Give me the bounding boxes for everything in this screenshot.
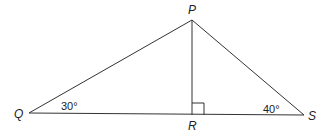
right-angle-marker (192, 103, 204, 115)
angle-label-q: 30° (61, 100, 78, 112)
vertex-label-p: P (188, 3, 196, 17)
vertex-label-q: Q (14, 107, 23, 121)
vertex-label-r: R (188, 119, 197, 133)
angle-label-s: 40° (263, 103, 280, 115)
triangle-diagram: P Q R S 30° 40° (0, 0, 331, 137)
segment-ps (192, 20, 304, 115)
segment-pq (29, 20, 192, 113)
vertex-label-s: S (308, 109, 316, 123)
